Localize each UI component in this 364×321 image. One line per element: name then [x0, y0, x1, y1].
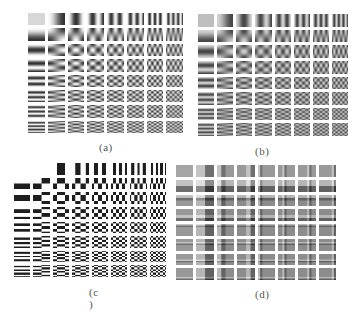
basis-cell: [217, 165, 234, 177]
basis-cell: [294, 108, 310, 121]
basis-cell: [130, 178, 146, 190]
basis-cell: [196, 239, 213, 251]
basis-cell: [319, 180, 336, 192]
basis-cell: [278, 195, 295, 207]
basis-image: [48, 121, 65, 133]
basis-image: [255, 108, 271, 121]
basis-image: [332, 123, 348, 136]
basis-image: [127, 59, 144, 71]
basis-cell: [176, 180, 193, 192]
basis-cell: [147, 121, 164, 133]
basis-image: [87, 90, 104, 102]
basis-image: [294, 92, 310, 105]
basis-image: [130, 222, 146, 234]
basis-image: [130, 251, 146, 263]
basis-cell: [130, 251, 146, 263]
basis-image: [255, 92, 271, 105]
basis-grid-a: [28, 13, 183, 133]
basis-image: [196, 268, 213, 280]
panel-label-a: (a): [99, 141, 113, 153]
basis-image: [319, 239, 336, 251]
basis-image: [217, 239, 234, 251]
basis-image: [48, 75, 65, 87]
basis-cell: [258, 209, 275, 221]
basis-cell: [236, 77, 252, 90]
basis-grid-b: [198, 14, 348, 136]
basis-cell: [275, 61, 291, 74]
basis-image: [275, 123, 291, 136]
basis-cell: [255, 77, 271, 90]
basis-cell: [198, 108, 214, 121]
basis-image: [217, 45, 233, 58]
basis-cell: [313, 92, 329, 105]
basis-image: [237, 239, 254, 251]
basis-image: [237, 209, 254, 221]
basis-cell: [87, 105, 104, 117]
basis-cell: [319, 195, 336, 207]
basis-image: [332, 77, 348, 90]
basis-cell: [68, 105, 85, 117]
basis-image: [150, 178, 166, 190]
basis-image: [28, 59, 45, 71]
basis-cell: [68, 121, 85, 133]
basis-cell: [278, 224, 295, 236]
basis-cell: [33, 163, 49, 175]
basis-cell: [237, 180, 254, 192]
basis-image: [217, 61, 233, 74]
basis-cell: [130, 192, 146, 204]
basis-image: [53, 163, 69, 175]
basis-cell: [255, 108, 271, 121]
basis-image: [107, 90, 124, 102]
basis-image: [48, 59, 65, 71]
basis-image: [147, 90, 164, 102]
basis-image: [150, 192, 166, 204]
basis-cell: [127, 121, 144, 133]
basis-image: [48, 90, 65, 102]
basis-image: [196, 224, 213, 236]
basis-image: [298, 209, 315, 221]
basis-image: [92, 192, 108, 204]
basis-image: [14, 178, 30, 190]
basis-cell: [28, 75, 45, 87]
basis-image: [147, 44, 164, 56]
basis-image: [28, 121, 45, 133]
basis-cell: [127, 28, 144, 40]
basis-cell: [294, 14, 310, 27]
basis-cell: [258, 239, 275, 251]
basis-cell: [92, 265, 108, 277]
basis-cell: [255, 92, 271, 105]
basis-cell: [111, 222, 127, 234]
basis-cell: [14, 222, 30, 234]
basis-cell: [147, 90, 164, 102]
basis-image: [166, 59, 183, 71]
basis-image: [166, 44, 183, 56]
basis-cell: [72, 236, 88, 248]
basis-cell: [332, 77, 348, 90]
basis-cell: [258, 268, 275, 280]
basis-cell: [48, 59, 65, 71]
basis-cell: [107, 28, 124, 40]
basis-image: [166, 105, 183, 117]
basis-image: [298, 254, 315, 266]
basis-image: [294, 77, 310, 90]
basis-cell: [111, 265, 127, 277]
basis-image: [332, 61, 348, 74]
basis-image: [72, 251, 88, 263]
basis-cell: [217, 180, 234, 192]
basis-cell: [111, 163, 127, 175]
basis-image: [313, 77, 329, 90]
basis-cell: [28, 59, 45, 71]
basis-cell: [319, 165, 336, 177]
basis-cell: [147, 75, 164, 87]
basis-image: [111, 265, 127, 277]
basis-cell: [150, 207, 166, 219]
basis-image: [294, 123, 310, 136]
basis-cell: [176, 224, 193, 236]
basis-image: [166, 75, 183, 87]
basis-cell: [68, 90, 85, 102]
basis-image: [258, 224, 275, 236]
basis-cell: [258, 195, 275, 207]
basis-cell: [28, 28, 45, 40]
basis-cell: [176, 165, 193, 177]
basis-image: [332, 92, 348, 105]
